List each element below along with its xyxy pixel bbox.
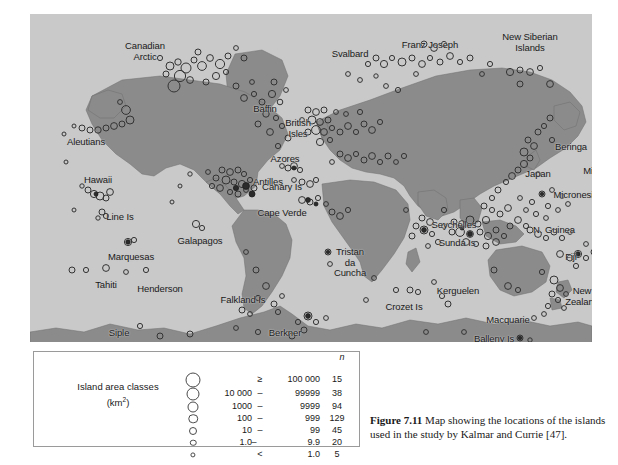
legend-circle-icon — [188, 414, 198, 424]
legend-range-high: 9.9 — [266, 437, 320, 447]
legend-unit-suffix: ) — [126, 397, 129, 408]
legend-circle-icon — [190, 439, 197, 446]
legend-count: 38 — [322, 388, 352, 398]
legend-range-operator: – — [248, 437, 260, 447]
legend-row: 1000 – 9999 94 — [184, 401, 352, 413]
legend-range-low: 100 — [202, 413, 252, 423]
legend-range-high: 9999 — [266, 401, 320, 411]
legend-unit-prefix: (km — [107, 397, 123, 408]
legend-title-line1: Island area classes — [48, 380, 188, 393]
legend-symbol — [184, 388, 202, 399]
legend-range-low: 10 000 — [202, 388, 252, 398]
legend-row: 10 – 99 45 — [184, 425, 352, 437]
world-map-graphic — [30, 14, 592, 342]
legend-count: 5 — [322, 449, 352, 459]
legend-rows: ≥ 100 000 15 10 000 – 99999 38 1000 – 99… — [184, 358, 352, 461]
legend-symbol — [184, 413, 202, 424]
legend-count: 45 — [322, 425, 352, 435]
legend-count: 20 — [322, 437, 352, 447]
legend-range-low: 1000 — [202, 401, 252, 411]
legend-symbol — [184, 374, 202, 385]
legend-range-operator: ≥ — [254, 374, 266, 384]
legend-count: 129 — [322, 413, 352, 423]
legend-range-operator: – — [254, 413, 266, 423]
legend-title: Island area classes (km2) — [48, 380, 188, 409]
legend-symbol — [184, 437, 202, 448]
world-map-panel: Canadian Arctic Aleutians Hawaii Line Is… — [30, 14, 592, 342]
legend-row: 100 – 999 129 — [184, 413, 352, 425]
figure-7-11: Canadian Arctic Aleutians Hawaii Line Is… — [0, 0, 618, 465]
legend-range-low: 1.0 — [202, 437, 252, 447]
legend-circle-icon — [189, 427, 197, 435]
legend-range-high: 1.0 — [266, 449, 320, 459]
legend-count: 94 — [322, 401, 352, 411]
legend-symbol — [184, 449, 202, 460]
legend-range-low: 10 — [202, 425, 252, 435]
legend-circle-icon — [186, 372, 201, 387]
legend-row: 10 000 – 99999 38 — [184, 388, 352, 401]
legend-row: < 1.0 5 — [184, 449, 352, 461]
legend-row: 1.0 – 9.9 20 — [184, 437, 352, 449]
legend-circle-icon — [190, 452, 195, 457]
legend-range-operator: < — [254, 449, 266, 459]
legend-circle-icon — [187, 387, 200, 400]
figure-caption: Figure 7.11 Map showing the locations of… — [370, 414, 612, 441]
figure-caption-label: Figure 7.11 — [370, 414, 422, 426]
legend-range-operator: – — [254, 388, 266, 398]
legend-symbol — [184, 425, 202, 436]
legend-range-operator: – — [254, 401, 266, 411]
legend-circle-icon — [188, 401, 199, 412]
legend-range-operator: – — [254, 425, 266, 435]
legend-symbol — [184, 401, 202, 412]
legend-range-high: 999 — [266, 413, 320, 423]
legend-row: ≥ 100 000 15 — [184, 374, 352, 388]
legend-range-high: 99 — [266, 425, 320, 435]
legend-panel: Island area classes (km2) n ≥ 100 000 15… — [33, 351, 360, 447]
legend-range-high: 99999 — [266, 388, 320, 398]
legend-range-high: 100 000 — [266, 374, 320, 384]
legend-count: 15 — [322, 374, 352, 384]
legend-title-line2: (km2) — [48, 393, 188, 409]
